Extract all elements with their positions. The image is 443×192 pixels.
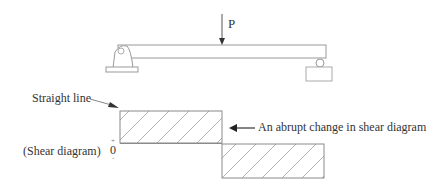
roller-support-icon — [306, 59, 332, 81]
minus-sign: - — [112, 155, 114, 162]
abrupt-change-annotation: An abrupt change in shear diagram — [258, 121, 426, 133]
pin-support-icon — [106, 46, 138, 72]
shear-diagram-title: (Shear diagram) — [23, 145, 101, 157]
straight-line-leader-arrow-icon — [90, 99, 119, 108]
straight-line-annotation: Straight line — [32, 92, 91, 104]
load-label: P — [228, 17, 235, 30]
beam — [118, 45, 326, 58]
load-arrow-icon — [219, 14, 225, 45]
abrupt-change-arrow-icon — [229, 124, 255, 132]
shear-negative-region — [222, 144, 324, 178]
shear-positive-region — [120, 111, 222, 143]
